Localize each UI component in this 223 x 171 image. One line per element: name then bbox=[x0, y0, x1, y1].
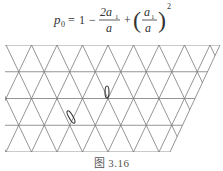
lattice-lines bbox=[0, 45, 223, 152]
figure-caption: 图 3.16 bbox=[0, 154, 223, 170]
triangular-lattice bbox=[0, 0, 223, 171]
